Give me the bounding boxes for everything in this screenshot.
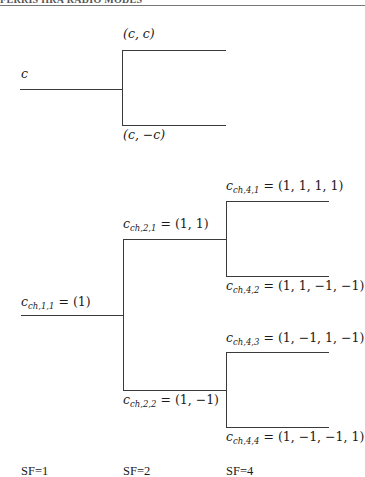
upper-code-label: (c, c) (123, 28, 155, 41)
ch-1-1-line (21, 315, 123, 316)
sf2-split-line (123, 239, 124, 391)
ch-4-1-line (226, 201, 329, 202)
root-branch-line (20, 89, 123, 90)
sf-2-label: SF=2 (123, 465, 150, 477)
ch-2-2-line (123, 390, 227, 391)
ch-4-3-line (226, 352, 329, 353)
ch-2-2-label: cch,2,2 = (1, −1) (123, 394, 219, 407)
ch-2-1-line (123, 239, 227, 240)
ch-4-3-label: cch,4,3 = (1, −1, 1, −1) (226, 332, 364, 345)
ch-4-2-label: cch,4,2 = (1, 1, −1, −1) (226, 280, 364, 293)
ch-4-4-line (226, 427, 329, 428)
root-code-label: c (21, 68, 28, 81)
header-rule (0, 5, 365, 6)
sf4-lower-split-line (226, 352, 227, 428)
ch-4-2-line (226, 276, 329, 277)
sf4-upper-split-line (226, 201, 227, 277)
ch-1-1-label: cch,1,1 = (1) (21, 296, 91, 309)
ch-4-1-label: cch,4,1 = (1, 1, 1, 1) (226, 180, 343, 193)
lower-branch-line (122, 125, 226, 126)
sf-4-label: SF=4 (226, 465, 253, 477)
sf-1-label: SF=1 (21, 465, 48, 477)
upper-branch-line (122, 50, 226, 51)
lower-code-label: (c, −c) (123, 129, 165, 142)
ch-2-1-label: cch,2,1 = (1, 1) (123, 218, 209, 231)
ch-4-4-label: cch,4,4 = (1, −1, −1, 1) (226, 431, 364, 444)
split-line (122, 50, 123, 126)
